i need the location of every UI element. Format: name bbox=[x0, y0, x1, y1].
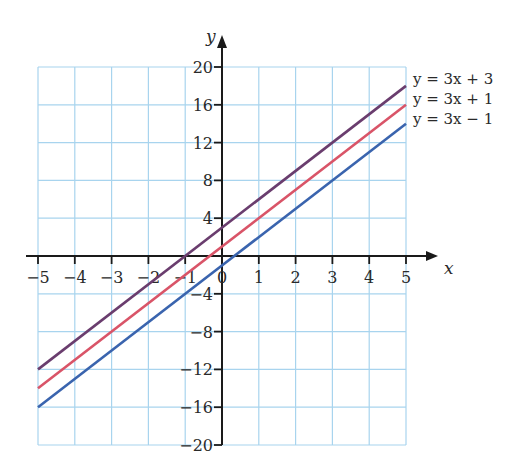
y-tick-label: 8 bbox=[203, 171, 213, 190]
x-axis-label: x bbox=[444, 258, 454, 278]
legend-entry: y = 3x + 1 bbox=[412, 90, 493, 108]
x-tick-label: 4 bbox=[364, 268, 374, 287]
legend: y = 3x + 3y = 3x + 1y = 3x − 1 bbox=[412, 70, 493, 128]
y-tick-label: 12 bbox=[193, 134, 213, 153]
x-tick-label: −5 bbox=[26, 268, 50, 287]
y-tick-label: −20 bbox=[179, 436, 213, 455]
x-tick-label: 2 bbox=[291, 268, 301, 287]
x-tick-label: 1 bbox=[254, 268, 264, 287]
y-tick-label: −8 bbox=[189, 323, 213, 342]
x-tick-label: 3 bbox=[327, 268, 337, 287]
y-tick-label: 20 bbox=[193, 58, 213, 77]
x-tick-label: −3 bbox=[100, 268, 124, 287]
y-tick-label: 16 bbox=[193, 96, 213, 115]
x-tick-label: 5 bbox=[401, 268, 411, 287]
x-tick-label: −4 bbox=[63, 268, 87, 287]
y-tick-label: −16 bbox=[179, 398, 213, 417]
legend-entry: y = 3x + 3 bbox=[412, 70, 493, 88]
y-tick-label: −12 bbox=[179, 360, 213, 379]
x-tick-label: 0 bbox=[217, 268, 227, 287]
legend-entry: y = 3x − 1 bbox=[412, 110, 493, 128]
y-axis-label: y bbox=[205, 26, 216, 46]
axes: xy bbox=[26, 26, 454, 445]
line-chart: xy −5−4−3−2−1012345−20−16−12−8−448121620… bbox=[0, 0, 531, 475]
y-tick-label: 4 bbox=[203, 209, 213, 228]
